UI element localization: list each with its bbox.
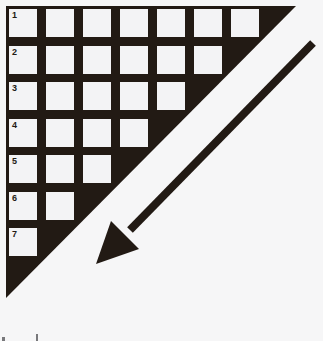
puzzle-cell [231,9,259,37]
row-number: 6 [12,193,17,203]
puzzle-cell: 6 [9,192,37,220]
scan-artifact [2,337,5,341]
puzzle-cell [157,9,185,37]
puzzle-cell [83,46,111,74]
puzzle-cell [46,9,74,37]
puzzle-cell [46,155,74,183]
puzzle-cell [46,192,74,220]
puzzle-cell [157,82,185,110]
puzzle-cell [120,82,148,110]
scanned-puzzle-page: 1234567 [0,0,323,341]
puzzle-cell: 2 [9,46,37,74]
puzzle-cell [83,155,111,183]
puzzle-grid: 1234567 [0,0,323,341]
row-number: 7 [12,229,17,239]
row-number: 1 [12,10,17,20]
scan-artifact [36,334,38,341]
puzzle-cell [83,82,111,110]
row-number: 4 [12,120,17,130]
row-number: 5 [12,156,17,166]
puzzle-cell [120,46,148,74]
puzzle-cell [46,119,74,147]
row-number: 2 [12,47,17,57]
puzzle-cell [83,9,111,37]
puzzle-cell [83,119,111,147]
puzzle-cell: 5 [9,155,37,183]
puzzle-cell [46,82,74,110]
puzzle-cell [194,9,222,37]
puzzle-cell [194,46,222,74]
row-number: 3 [12,83,17,93]
puzzle-cell: 4 [9,119,37,147]
puzzle-cell [46,46,74,74]
puzzle-cell: 7 [9,228,37,256]
puzzle-cell [157,46,185,74]
puzzle-cell [120,119,148,147]
puzzle-cell [120,9,148,37]
puzzle-cell: 1 [9,9,37,37]
puzzle-cell: 3 [9,82,37,110]
